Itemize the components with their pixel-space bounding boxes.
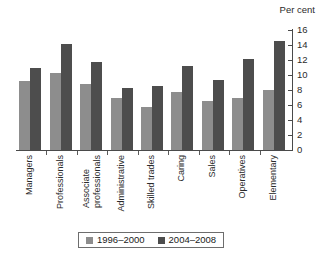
bar	[202, 101, 213, 150]
x-group-tick	[138, 151, 139, 155]
x-category-label: Managers	[24, 155, 34, 195]
legend-swatch-icon	[86, 237, 93, 244]
bar	[243, 59, 254, 151]
bar	[213, 80, 224, 150]
x-group-tick	[168, 151, 169, 155]
legend-item-1996-2000[interactable]: 1996–2000	[86, 235, 145, 245]
y-tick	[288, 90, 293, 91]
x-category-label: Operatives	[237, 155, 247, 199]
y-axis-title: Per cent	[280, 4, 315, 16]
x-category-label: Professionals	[55, 155, 65, 209]
bar	[182, 66, 193, 150]
x-category-label-line: professionals	[92, 155, 103, 208]
bar	[91, 62, 102, 151]
bar	[263, 90, 274, 150]
y-tick-label: 0	[297, 145, 302, 155]
x-group-tick	[46, 151, 47, 155]
y-tick-label: 8	[297, 85, 302, 95]
y-tick	[288, 75, 293, 76]
legend-label: 1996–2000	[97, 235, 145, 245]
x-group-tick	[229, 151, 230, 155]
x-group-tick	[260, 151, 261, 155]
y-tick-label: 2	[297, 130, 302, 140]
x-category-label: Elementary	[268, 155, 278, 201]
x-category-label: Sales	[207, 155, 217, 178]
y-tick-label: 16	[297, 25, 308, 35]
legend-swatch-icon	[158, 237, 165, 244]
y-tick	[288, 120, 293, 121]
y-tick	[288, 60, 293, 61]
bar	[19, 81, 30, 150]
bar	[122, 88, 133, 150]
x-category-label: Caring	[176, 155, 186, 182]
y-tick-label: 14	[297, 40, 308, 50]
x-category-label-line: Skilled trades	[146, 155, 156, 209]
x-group-tick	[199, 151, 200, 155]
bar	[152, 86, 163, 150]
bar	[141, 107, 152, 150]
y-tick-label: 6	[297, 100, 302, 110]
y-tick-label: 10	[297, 70, 308, 80]
x-category-label-line: Sales	[207, 155, 217, 178]
y-tick	[288, 30, 293, 31]
x-category-label-line: Professionals	[55, 155, 65, 209]
legend-item-2004-2008[interactable]: 2004–2008	[158, 235, 217, 245]
chart-legend: 1996–2000 2004–2008	[78, 232, 224, 248]
bar-chart: Per cent 0246810121416 ManagersProfessio…	[0, 0, 323, 262]
y-tick	[288, 45, 293, 46]
x-group-tick	[77, 151, 78, 155]
bar	[61, 44, 72, 151]
bar	[111, 98, 122, 151]
y-tick	[288, 150, 293, 151]
y-tick	[288, 135, 293, 136]
bar	[30, 68, 41, 151]
x-category-label-line: Operatives	[237, 155, 247, 199]
x-group-tick	[107, 151, 108, 155]
y-tick-label: 12	[297, 55, 308, 65]
x-axis-line	[16, 150, 292, 151]
bar	[274, 41, 285, 150]
bar	[232, 98, 243, 150]
x-category-label: Skilled trades	[146, 155, 156, 209]
y-tick	[288, 105, 293, 106]
x-category-label: Associateprofessionals	[81, 155, 102, 208]
x-category-label-line: Elementary	[268, 155, 278, 201]
x-category-label-line: Managers	[24, 155, 34, 195]
x-category-label-line: Associate	[81, 169, 91, 208]
legend-label: 2004–2008	[169, 235, 217, 245]
x-category-label-line: Administrative	[116, 155, 126, 212]
bar	[50, 73, 61, 150]
x-category-label-line: Caring	[176, 155, 186, 182]
bar	[171, 92, 182, 151]
bar	[80, 84, 91, 150]
plot-area	[16, 30, 290, 150]
x-category-label: Administrative	[116, 155, 126, 212]
y-tick-label: 4	[297, 115, 302, 125]
